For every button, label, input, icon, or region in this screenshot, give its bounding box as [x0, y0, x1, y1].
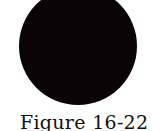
- figure-panel: Figure 16-22: [0, 0, 166, 131]
- filled-circle-shape: [19, 0, 137, 105]
- figure-caption: Figure 16-22: [20, 111, 148, 131]
